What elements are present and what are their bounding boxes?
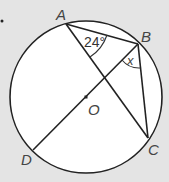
bullet-dot xyxy=(1,20,4,23)
angle-a-value: 24° xyxy=(84,34,105,50)
center-point xyxy=(85,96,88,99)
label-d: D xyxy=(21,151,32,168)
circle-diagram: A B C D O 24° x xyxy=(0,0,169,182)
label-o: O xyxy=(88,101,100,118)
label-c: C xyxy=(148,141,159,158)
label-b: B xyxy=(141,28,151,45)
label-a: A xyxy=(55,6,66,23)
angle-b-value: x xyxy=(126,53,134,68)
